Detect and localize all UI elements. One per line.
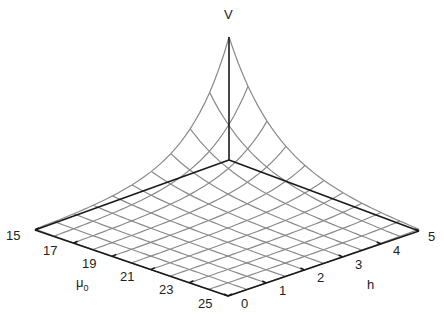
h-axis-label: h xyxy=(367,278,374,291)
h-tick: 2 xyxy=(317,271,324,284)
mu-tick: 19 xyxy=(82,257,96,270)
mu-tick: 17 xyxy=(43,244,57,257)
mu-tick: 21 xyxy=(120,270,134,283)
mu-tick-mark xyxy=(112,254,116,256)
surface-plot xyxy=(0,0,444,315)
h-tick-mark xyxy=(377,242,381,244)
mu-tick: 15 xyxy=(6,229,20,242)
h-tick: 4 xyxy=(393,244,400,257)
h-tick-mark xyxy=(224,294,228,296)
mesh-line-h xyxy=(151,171,342,256)
mu-axis-label: μ0 xyxy=(76,276,89,293)
mu-axis-label-sub: 0 xyxy=(84,283,89,293)
h-axis-line xyxy=(228,231,419,296)
v-axis-label: V xyxy=(224,8,233,21)
h-tick-mark xyxy=(300,268,304,270)
h-tick: 0 xyxy=(241,297,248,310)
mesh-line-h xyxy=(229,37,419,229)
mu-axis-line xyxy=(35,230,228,296)
h-tick-mark xyxy=(339,255,343,257)
mu-tick-mark xyxy=(35,228,39,230)
h-tick-mark xyxy=(262,281,266,283)
mu-tick-mark xyxy=(74,241,78,243)
mu-tick: 25 xyxy=(198,297,212,310)
mu-tick-mark xyxy=(228,294,232,296)
mesh-line-mu xyxy=(189,213,381,283)
h-tick: 1 xyxy=(279,284,286,297)
mu-tick-mark xyxy=(151,268,155,270)
h-tick: 5 xyxy=(428,230,435,243)
mu-axis-label-main: μ xyxy=(76,275,84,290)
mu-tick-mark xyxy=(189,281,193,283)
h-tick: 3 xyxy=(355,258,362,271)
mu-tick: 23 xyxy=(159,283,173,296)
back-left-edge xyxy=(35,160,229,230)
mesh-line-mu xyxy=(132,180,325,263)
mesh-line-h xyxy=(210,92,400,236)
